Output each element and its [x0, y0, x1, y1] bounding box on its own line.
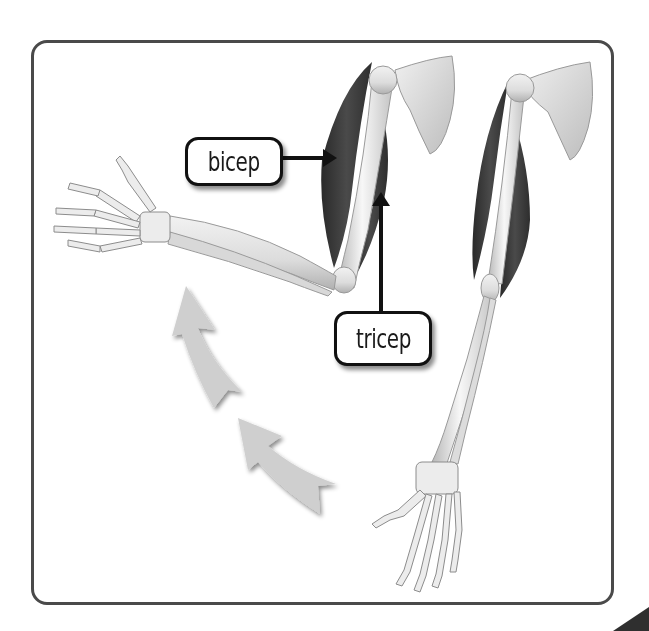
bicep-label: bicep	[185, 137, 283, 186]
arm-illustration	[0, 0, 649, 631]
tricep-label-text: tricep	[356, 323, 411, 354]
curved-motion-arrow-icon	[172, 286, 336, 514]
bent-hand-bones	[54, 156, 170, 252]
bicep-label-text: bicep	[208, 146, 260, 177]
straight-hand-bones	[372, 462, 462, 592]
page-corner-shape	[609, 601, 649, 631]
tricep-label: tricep	[334, 311, 432, 366]
